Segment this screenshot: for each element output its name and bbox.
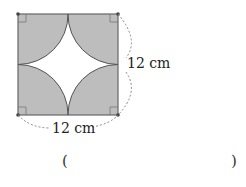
bottom-length-label: 12 cm [52,120,95,136]
answer-close-paren: ) [231,152,237,170]
corner-dot [16,12,20,16]
side-length-label: 12 cm [127,55,170,71]
answer-blank[interactable] [75,152,225,170]
answer-open-paren: ( [62,152,68,170]
